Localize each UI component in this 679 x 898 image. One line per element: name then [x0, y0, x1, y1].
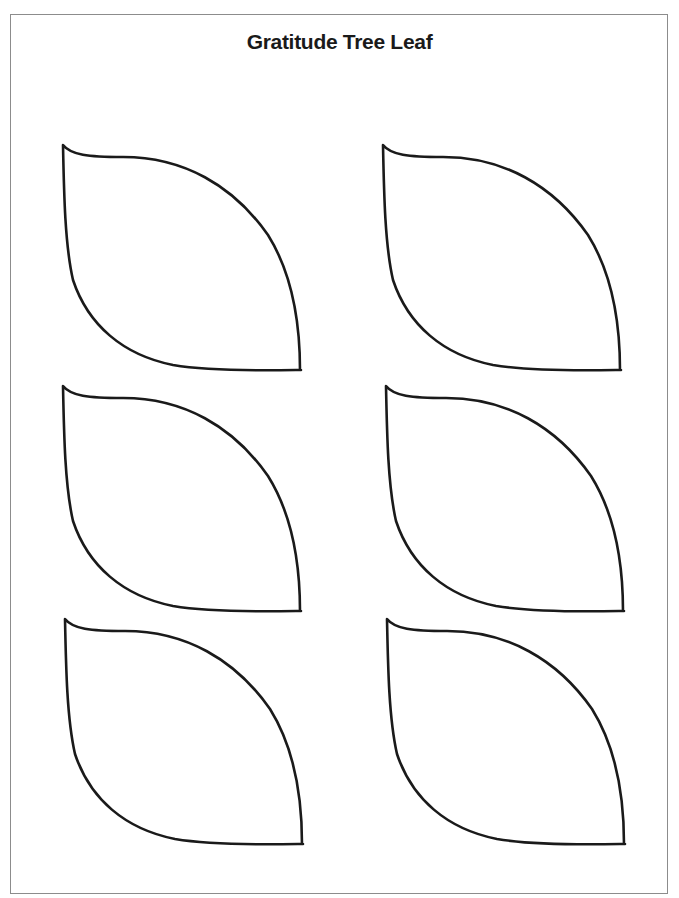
leaf-outline — [63, 386, 301, 611]
leaf-outline — [386, 386, 624, 611]
leaf-outline — [63, 145, 301, 370]
leaf-outline — [387, 619, 625, 844]
leaf-shape — [383, 145, 621, 370]
leaf-shape — [387, 619, 625, 844]
leaf-shape — [65, 619, 303, 844]
leaf-shape — [63, 386, 301, 611]
leaf-shape — [386, 386, 624, 611]
leaf-outline — [383, 145, 621, 370]
leaf-outlines — [0, 0, 679, 898]
leaf-shape — [63, 145, 301, 370]
leaf-outline — [65, 619, 303, 844]
